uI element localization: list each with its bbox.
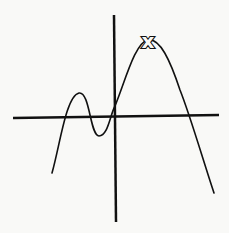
function-graph: x [0, 0, 229, 233]
maximum-marker-x: x [142, 29, 155, 53]
y-axis [114, 15, 116, 222]
